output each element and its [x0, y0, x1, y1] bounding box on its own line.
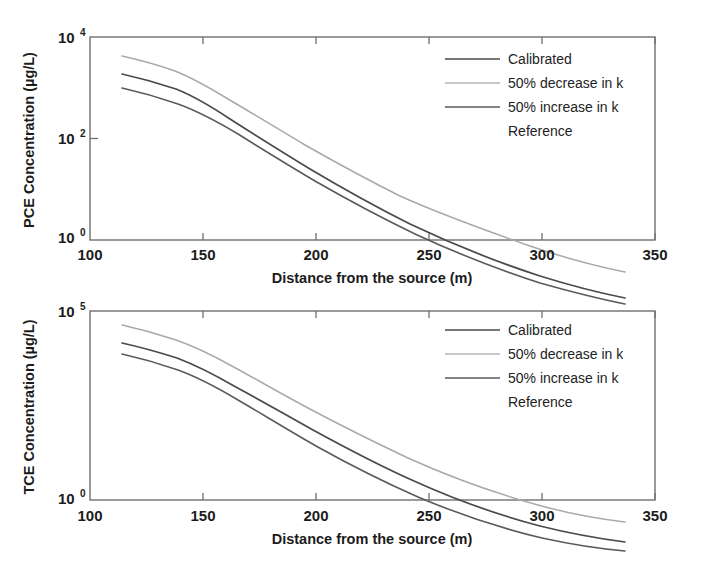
tce-xtick-label-300: 300	[529, 507, 554, 524]
tce-chart-panel: 10 0 10 5 100 150 200 250 300 350 Distan…	[0, 285, 701, 575]
pce-legend-label-decrease: 50% decrease in k	[508, 75, 624, 91]
tce-legend-label-calibrated: Calibrated	[508, 322, 572, 338]
pce-plot-svg: 10 0 10 2 10 4 100 150 200 250 300 350 D…	[0, 0, 701, 290]
tce-legend-label-decrease: 50% decrease in k	[508, 346, 624, 362]
tce-plot-svg: 10 0 10 5 100 150 200 250 300 350 Distan…	[0, 285, 701, 575]
tce-ytick-label-1-base: 10	[58, 303, 75, 320]
tce-legend-label-increase: 50% increase in k	[508, 370, 620, 386]
pce-xtick-label-350: 350	[642, 246, 667, 263]
tce-ytick-labels: 10 0 10 5	[58, 301, 86, 507]
pce-ytick-label-2-exp: 4	[80, 27, 86, 38]
tce-xtick-label-250: 250	[416, 507, 441, 524]
pce-xtick-label-150: 150	[190, 246, 215, 263]
tce-xtick-label-200: 200	[303, 507, 328, 524]
pce-legend-label-reference: Reference	[508, 123, 573, 139]
figure-container: 10 0 10 2 10 4 100 150 200 250 300 350 D…	[0, 0, 701, 575]
tce-xtick-label-150: 150	[190, 507, 215, 524]
tce-xtick-label-350: 350	[642, 507, 667, 524]
pce-legend: Calibrated 50% decrease in k 50% increas…	[445, 51, 624, 139]
tce-ytick-label-0-base: 10	[58, 490, 75, 507]
pce-chart-panel: 10 0 10 2 10 4 100 150 200 250 300 350 D…	[0, 0, 701, 290]
pce-xtick-label-100: 100	[77, 246, 102, 263]
pce-yaxis-title: PCE Concentration (µg/L)	[21, 52, 37, 228]
pce-ytick-label-1-exp: 2	[80, 128, 86, 139]
tce-yaxis-title: TCE Concentration (µg/L)	[21, 319, 37, 494]
tce-ytick-label-1-exp: 5	[80, 301, 86, 312]
pce-legend-label-increase: 50% increase in k	[508, 99, 620, 115]
pce-xtick-label-300: 300	[529, 246, 554, 263]
tce-ytick-label-0-exp: 0	[80, 488, 86, 499]
pce-ytick-label-0-exp: 0	[80, 227, 86, 238]
pce-ytick-label-0-base: 10	[58, 229, 75, 246]
tce-xaxis-title: Distance from the source (m)	[272, 531, 473, 547]
pce-data-curves	[122, 56, 625, 304]
pce-ytick-label-2-base: 10	[58, 29, 75, 46]
tce-legend-label-reference: Reference	[508, 394, 573, 410]
tce-legend: Calibrated 50% decrease in k 50% increas…	[445, 322, 624, 410]
pce-ytick-labels: 10 0 10 2 10 4	[58, 27, 86, 246]
pce-xtick-label-250: 250	[416, 246, 441, 263]
pce-xticks	[203, 37, 655, 240]
pce-legend-label-calibrated: Calibrated	[508, 51, 572, 67]
pce-xaxis-title: Distance from the source (m)	[272, 270, 473, 286]
pce-ytick-label-1-base: 10	[58, 130, 75, 147]
tce-xtick-label-100: 100	[77, 507, 102, 524]
pce-xtick-label-200: 200	[303, 246, 328, 263]
